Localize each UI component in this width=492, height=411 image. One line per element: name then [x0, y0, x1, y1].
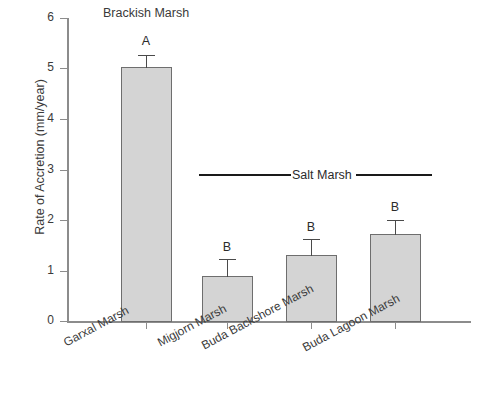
y-tick-2: 2: [60, 220, 67, 221]
y-tick-0: 0: [60, 321, 67, 322]
bar-garxal-marsh: [121, 67, 172, 322]
y-axis-title: Rate of Accretion (mm/year): [33, 47, 47, 267]
error-bar-cap-garxal-marsh: [138, 55, 155, 56]
accretion-rate-bar-chart: Rate of Accretion (mm/year) 6 5 4 3 2 1 …: [0, 0, 492, 411]
y-tick-4: 4: [60, 119, 67, 120]
x-tick-garxal-marsh: [146, 323, 147, 329]
error-bar-stem-garxal-marsh: [146, 55, 147, 68]
x-tick-buda-lagoon-marsh: [395, 323, 396, 329]
y-tick-6: 6: [60, 18, 67, 19]
x-axis-label-garxal-marsh: Garxal Marsh: [61, 303, 131, 349]
group-letter-migjorn-marsh: B: [212, 240, 242, 254]
salt-marsh-line-left: [199, 174, 293, 176]
y-tick-5: 5: [60, 68, 67, 69]
brackish-marsh-annotation-label: Brackish Marsh: [103, 6, 189, 20]
y-tick-1: 1: [60, 271, 67, 272]
error-bar-stem-buda-lagoon-marsh: [395, 220, 396, 235]
y-tick-label-1: 1: [47, 263, 54, 278]
salt-marsh-annotation-label: Salt Marsh: [291, 167, 353, 183]
salt-marsh-line-right: [356, 174, 432, 176]
error-bar-stem-migjorn-marsh: [227, 259, 228, 277]
error-bar-stem-buda-backshore-marsh: [311, 239, 312, 256]
y-tick-label-6: 6: [47, 10, 54, 25]
y-tick-label-4: 4: [47, 111, 54, 126]
salt-marsh-annotation: Salt Marsh: [199, 167, 432, 183]
y-tick-label-3: 3: [47, 162, 54, 177]
x-tick-buda-backshore-marsh: [311, 323, 312, 329]
error-bar-cap-buda-backshore-marsh: [303, 239, 320, 240]
y-tick-label-0: 0: [47, 313, 54, 328]
group-letter-garxal-marsh: A: [131, 34, 161, 48]
y-tick-label-2: 2: [47, 212, 54, 227]
y-tick-label-5: 5: [47, 60, 54, 75]
y-axis-line: [67, 18, 69, 323]
error-bar-cap-buda-lagoon-marsh: [387, 220, 404, 221]
error-bar-cap-migjorn-marsh: [219, 259, 236, 260]
group-letter-buda-lagoon-marsh: B: [380, 200, 410, 214]
y-tick-3: 3: [60, 170, 67, 171]
group-letter-buda-backshore-marsh: B: [296, 220, 326, 234]
